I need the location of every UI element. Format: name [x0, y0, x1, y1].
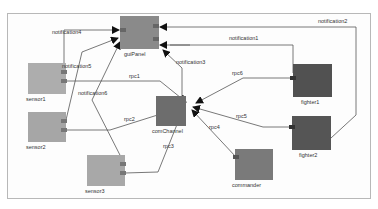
connection-label: notification4 — [52, 29, 81, 35]
port — [61, 79, 67, 83]
component-comChannel[interactable]: comChannel — [152, 96, 186, 134]
component-sensor2[interactable]: sensor2 — [26, 112, 67, 150]
component-label: comChannel — [152, 128, 183, 134]
port — [153, 24, 159, 28]
component-label: fighter1 — [301, 99, 319, 105]
port — [61, 70, 67, 74]
component-sensor1[interactable]: sensor1 — [26, 63, 67, 102]
component-diagram: guiPanel sensor1 sensor2 sensor3 comChan… — [0, 0, 378, 209]
connection-notification3[interactable] — [163, 50, 182, 97]
port — [290, 76, 296, 80]
port — [61, 119, 67, 123]
component-label: sensor3 — [85, 188, 105, 194]
port — [61, 128, 67, 132]
port — [120, 171, 126, 175]
port — [120, 162, 126, 166]
component-label: fighter2 — [299, 152, 317, 158]
component-fighter2[interactable]: fighter2 — [289, 116, 331, 158]
connection-label: rpc2 — [124, 116, 135, 122]
component-label: commander — [232, 182, 261, 188]
port — [120, 28, 126, 32]
component-label: sensor1 — [26, 96, 46, 102]
connection-notification5[interactable] — [66, 38, 118, 120]
connection-label: notification3 — [176, 59, 205, 65]
connection-notification6[interactable] — [92, 42, 124, 163]
connection-label: notification6 — [78, 90, 107, 96]
connection-label: rpc4 — [209, 124, 220, 130]
component-label: sensor2 — [26, 144, 46, 150]
port — [233, 155, 239, 159]
connection-label: rpc3 — [163, 143, 174, 149]
connection-rpc6[interactable] — [196, 78, 293, 103]
connection-label: notification1 — [229, 35, 258, 41]
component-guiPanel[interactable]: guiPanel — [120, 16, 159, 57]
connection-label: rpc6 — [232, 70, 243, 76]
connection-label: rpc5 — [236, 113, 247, 119]
component-label: guiPanel — [124, 51, 145, 57]
component-commander[interactable]: commander — [232, 149, 273, 188]
connection-label: notification2 — [318, 18, 347, 24]
connection-label: notification5 — [62, 63, 91, 69]
component-sensor3[interactable]: sensor3 — [85, 155, 126, 194]
port — [153, 37, 159, 41]
connection-label: rpc1 — [129, 73, 140, 79]
component-fighter1[interactable]: fighter1 — [290, 64, 332, 105]
port — [289, 125, 295, 129]
